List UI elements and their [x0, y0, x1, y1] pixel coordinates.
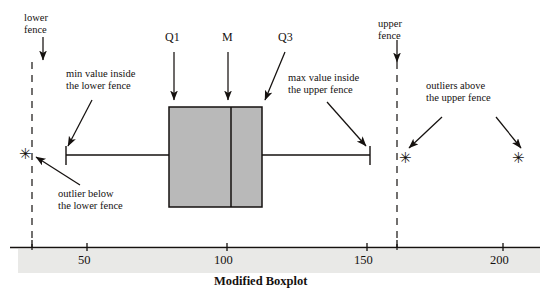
outlier-marker-above-2: ✳	[512, 151, 525, 166]
label-outliers-above-upper-fence: outliers above the upper fence	[426, 80, 491, 104]
label-outlier-below-lower-fence: outlier below the lower fence	[58, 188, 123, 212]
label-lower-fence: lower fence	[24, 12, 48, 36]
arrow-max-inside	[327, 102, 366, 146]
label-upper-fence: upper fence	[378, 18, 402, 42]
arrow-outlier-above-2	[496, 117, 521, 148]
label-median: M	[222, 31, 233, 44]
arrow-outlier-below	[36, 157, 80, 185]
arrow-min-inside	[68, 100, 92, 146]
boxplot-figure: ✳ ✳ ✳ lower fence upper fence min value …	[0, 0, 551, 294]
label-q1: Q1	[165, 31, 180, 44]
arrow-outlier-above-1	[409, 117, 442, 148]
label-max-inside-upper-fence: max value inside the upper fence	[288, 72, 359, 96]
whisker-right	[262, 146, 370, 165]
outlier-marker-below: ✳	[19, 147, 32, 162]
label-q3: Q3	[278, 31, 293, 44]
axis-title: Modified Boxplot	[214, 274, 307, 288]
whisker-left	[66, 146, 169, 165]
outlier-marker-above-1: ✳	[399, 151, 412, 166]
axis-tick-50: 50	[78, 253, 91, 267]
axis-tick-100: 100	[214, 253, 233, 267]
axis-tick-200: 200	[490, 253, 509, 267]
axis-label-band	[18, 249, 540, 273]
arrow-q3	[265, 52, 285, 100]
box-iqr	[169, 107, 262, 207]
label-min-inside-lower-fence: min value inside the lower fence	[66, 68, 135, 92]
axis-tick-150: 150	[354, 253, 373, 267]
